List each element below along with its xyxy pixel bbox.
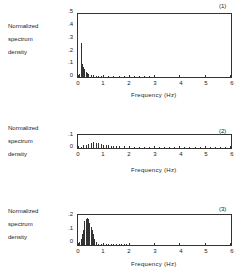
x-tick: 1 bbox=[98, 80, 108, 86]
y-tick: .2 bbox=[63, 211, 73, 217]
spectrum-bar bbox=[129, 76, 130, 77]
x-tick-mark bbox=[230, 146, 231, 148]
y-tick: .5 bbox=[63, 8, 73, 14]
spectrum-bar bbox=[124, 146, 125, 148]
x-tick: 4 bbox=[176, 80, 186, 86]
spectrum-bar bbox=[96, 76, 97, 77]
spectrum-bar bbox=[101, 244, 102, 245]
plot-area bbox=[77, 134, 232, 149]
y-label-line-2: spectrum bbox=[8, 33, 38, 46]
panel-label: (3) bbox=[219, 206, 226, 212]
spectrum-bar bbox=[84, 221, 85, 245]
spectrum-bar bbox=[81, 147, 82, 148]
spectrum-bar bbox=[113, 146, 114, 148]
spectrum-bar bbox=[119, 244, 120, 245]
spectrum-bar bbox=[103, 76, 104, 77]
spectrum-bar bbox=[195, 147, 196, 148]
spectrum-bar bbox=[169, 147, 170, 148]
spectrum-bar bbox=[119, 76, 120, 77]
spectrum-bar bbox=[89, 223, 90, 245]
spectrum-bar bbox=[98, 143, 99, 148]
spectrum-bar bbox=[139, 147, 140, 148]
y-tick: .1 bbox=[63, 225, 73, 231]
x-tick: 4 bbox=[176, 248, 186, 254]
spectrum-bar bbox=[220, 147, 221, 148]
spectrum-bar bbox=[116, 146, 117, 148]
spectrum-bar bbox=[134, 76, 135, 77]
spectrum-bar bbox=[101, 76, 102, 77]
x-tick: 5 bbox=[201, 80, 211, 86]
y-axis-label: Normalized spectrum density bbox=[8, 20, 38, 59]
x-tick: 3 bbox=[150, 80, 160, 86]
spectrum-bar bbox=[113, 76, 114, 77]
x-tick-mark bbox=[179, 75, 180, 77]
spectrum-bar bbox=[119, 146, 120, 148]
x-tick: 0 bbox=[73, 151, 83, 157]
spectrum-bar bbox=[154, 76, 155, 77]
spectrum-bar bbox=[149, 76, 150, 77]
spectrum-bar bbox=[200, 147, 201, 148]
spectrum-bar bbox=[154, 147, 155, 148]
spectrum-bar bbox=[108, 145, 109, 148]
x-tick-mark bbox=[230, 243, 231, 245]
x-tick: 2 bbox=[124, 80, 134, 86]
spectrum-bar bbox=[106, 145, 107, 148]
spectrum-bar bbox=[83, 145, 84, 148]
plot-area bbox=[77, 214, 232, 246]
spectrum-bar bbox=[96, 143, 97, 148]
x-tick: 4 bbox=[176, 151, 186, 157]
y-tick: .4 bbox=[63, 21, 73, 27]
x-tick: 3 bbox=[150, 248, 160, 254]
x-tick: 6 bbox=[227, 80, 237, 86]
x-tick: 2 bbox=[124, 151, 134, 157]
y-tick: 0 bbox=[63, 143, 73, 149]
y-label-line-2: spectrum bbox=[8, 135, 38, 148]
spectrum-bar bbox=[129, 244, 130, 245]
spectrum-bar bbox=[124, 244, 125, 245]
y-tick: 0 bbox=[63, 238, 73, 244]
y-tick: .1 bbox=[63, 59, 73, 65]
spectrum-bar bbox=[215, 147, 216, 148]
spectrum-bar bbox=[116, 244, 117, 245]
x-tick-mark bbox=[230, 75, 231, 77]
x-tick: 6 bbox=[227, 151, 237, 157]
y-label-line-1: Normalized bbox=[8, 122, 38, 135]
x-tick-mark bbox=[78, 146, 79, 148]
y-axis-label: Normalized spectrum density bbox=[8, 205, 38, 244]
spectrum-bar bbox=[88, 144, 89, 148]
spectrum-bar bbox=[91, 75, 92, 77]
spectrum-bar bbox=[106, 244, 107, 245]
x-tick: 5 bbox=[201, 248, 211, 254]
spectrum-bar bbox=[79, 242, 80, 245]
spectrum-bar bbox=[84, 69, 85, 77]
spectrum-bar bbox=[126, 244, 127, 245]
spectrum-bar bbox=[205, 147, 206, 148]
spectrum-bar bbox=[108, 76, 109, 77]
spectrum-bar bbox=[124, 76, 125, 77]
spectrum-bar bbox=[103, 244, 104, 245]
x-tick: 1 bbox=[98, 248, 108, 254]
spectrum-bar bbox=[174, 147, 175, 148]
x-tick-mark bbox=[154, 243, 155, 245]
x-tick: 5 bbox=[201, 151, 211, 157]
spectrum-bar bbox=[184, 147, 185, 148]
spectrum-bar bbox=[144, 147, 145, 148]
y-label-line-3: density bbox=[8, 148, 38, 161]
spectrum-bar bbox=[93, 75, 94, 77]
y-label-line-1: Normalized bbox=[8, 20, 38, 33]
spectrum-bar bbox=[139, 76, 140, 77]
spectrum-bar bbox=[86, 145, 87, 148]
spectrum-bar bbox=[210, 147, 211, 148]
x-axis-label: Frequency (Hz) bbox=[131, 167, 177, 173]
x-tick-mark bbox=[205, 243, 206, 245]
spectrum-bar bbox=[108, 244, 109, 245]
spectrum-bar bbox=[91, 143, 92, 148]
spectrum-bar bbox=[79, 74, 80, 77]
x-tick: 0 bbox=[73, 248, 83, 254]
spectrum-bar bbox=[159, 147, 160, 148]
plot-area bbox=[77, 13, 232, 78]
x-tick: 1 bbox=[98, 151, 108, 157]
spectrum-bar bbox=[94, 239, 95, 245]
y-label-line-1: Normalized bbox=[8, 205, 38, 218]
y-label-line-2: spectrum bbox=[8, 218, 38, 231]
